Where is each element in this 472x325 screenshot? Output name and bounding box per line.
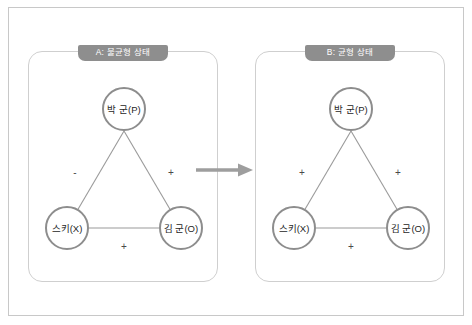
node-kim-b[interactable]: 김 군(O) (386, 206, 430, 250)
node-ski-b[interactable]: 스키(X) (272, 206, 316, 250)
node-park-b[interactable]: 박 군(P) (329, 87, 373, 131)
right-arrow-icon (196, 162, 254, 178)
balance-theory-figure: A: 불균형 상태 박 군(P) 스키(X) 김 군(O) - + + B: 균… (0, 0, 472, 325)
panel-balanced-state: B: 균형 상태 박 군(P) 스키(X) 김 군(O) + + + (255, 51, 445, 282)
node-label: 박 군(P) (107, 102, 140, 116)
edge-sign-ski-kim-a: + (118, 242, 130, 252)
node-ski-a[interactable]: 스키(X) (45, 206, 89, 250)
node-label: 김 군(O) (164, 221, 198, 235)
edge-sign-ski-kim-b: + (345, 242, 357, 252)
edge-sign-park-kim-b: + (392, 168, 404, 178)
node-label: 스키(X) (279, 221, 310, 235)
edge-sign-park-ski-b: + (296, 168, 308, 178)
node-label: 박 군(P) (334, 102, 367, 116)
node-kim-a[interactable]: 김 군(O) (159, 206, 203, 250)
transition-arrow (196, 162, 254, 178)
panel-imbalanced-state: A: 불균형 상태 박 군(P) 스키(X) 김 군(O) - + + (28, 51, 218, 282)
node-label: 김 군(O) (391, 221, 425, 235)
node-park-a[interactable]: 박 군(P) (102, 87, 146, 131)
edge-sign-park-ski-a: - (69, 168, 81, 178)
edge-sign-park-kim-a: + (165, 168, 177, 178)
node-label: 스키(X) (52, 221, 83, 235)
